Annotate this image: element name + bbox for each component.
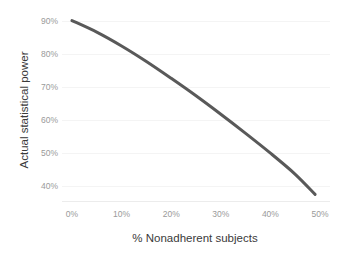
y-axis-tick-labels: 40%50%60%70%80%90% (28, 14, 58, 202)
chart-container: Actual statistical power 40%50%60%70%80%… (0, 0, 341, 267)
x-tick-label: 50% (300, 209, 340, 219)
y-tick-label: 60% (28, 115, 58, 125)
power-curve-path (72, 21, 315, 195)
y-tick-label: 50% (28, 148, 58, 158)
plot-area (62, 14, 330, 202)
y-tick-label: 80% (28, 49, 58, 59)
x-tick-label: 30% (201, 209, 241, 219)
x-tick-label: 10% (102, 209, 142, 219)
x-axis-title: % Nonadherent subjects (60, 232, 330, 244)
y-tick-label: 40% (28, 181, 58, 191)
x-tick-label: 20% (151, 209, 191, 219)
x-axis-tick-labels: 0%10%20%30%40%50% (62, 209, 330, 221)
y-tick-label: 90% (28, 16, 58, 26)
x-tick-label: 0% (52, 209, 92, 219)
x-tick-label: 40% (250, 209, 290, 219)
data-line-series (62, 14, 330, 202)
y-tick-label: 70% (28, 82, 58, 92)
